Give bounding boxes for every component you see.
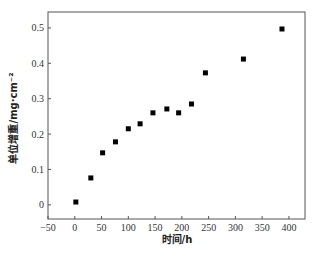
x-tick-label: 250 bbox=[201, 222, 216, 233]
y-tick-label: 0.2 bbox=[32, 129, 45, 140]
data-point-marker bbox=[164, 106, 169, 111]
plot-area-frame bbox=[48, 12, 305, 219]
x-tick-label: −50 bbox=[40, 222, 56, 233]
data-point-marker bbox=[73, 200, 78, 205]
x-tick-label: 100 bbox=[121, 222, 136, 233]
x-tick-label: 350 bbox=[255, 222, 270, 233]
y-tick-label: 0.1 bbox=[32, 164, 45, 175]
data-points bbox=[73, 26, 284, 204]
x-tick-label: 300 bbox=[228, 222, 243, 233]
x-tick-label: 150 bbox=[148, 222, 163, 233]
y-tick-label: 0.3 bbox=[32, 93, 45, 104]
x-tick-label: 200 bbox=[174, 222, 189, 233]
data-point-marker bbox=[150, 110, 155, 115]
x-axis-title: 时间/h bbox=[162, 233, 193, 245]
data-point-marker bbox=[241, 57, 246, 62]
y-tick-label: 0 bbox=[39, 199, 44, 210]
data-point-marker bbox=[203, 70, 208, 75]
data-point-marker bbox=[138, 121, 143, 126]
data-point-marker bbox=[176, 110, 181, 115]
y-tick-label: 0.4 bbox=[32, 58, 45, 69]
data-point-marker bbox=[100, 150, 105, 155]
x-tick-label: 50 bbox=[97, 222, 107, 233]
data-point-marker bbox=[279, 26, 284, 31]
data-point-marker bbox=[126, 126, 131, 131]
scatter-chart: −50050100150200250300350400 00.10.20.30.… bbox=[0, 0, 318, 259]
data-point-marker bbox=[113, 139, 118, 144]
data-point-marker bbox=[189, 102, 194, 107]
y-axis-title: 单位增重/mg·cm⁻² bbox=[7, 72, 19, 163]
data-point-marker bbox=[88, 175, 93, 180]
x-tick-label: 400 bbox=[281, 222, 296, 233]
x-tick-label: 0 bbox=[72, 222, 77, 233]
y-tick-label: 0.5 bbox=[32, 22, 45, 33]
